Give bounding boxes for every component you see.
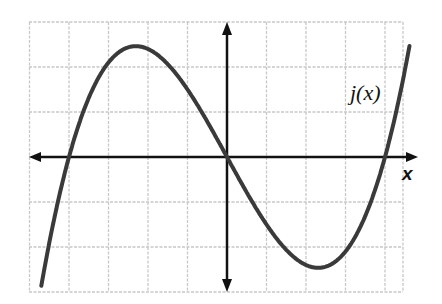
axes [29,22,418,292]
function-label: j(x) [347,80,381,105]
x-axis-right-arrow-icon [406,152,418,162]
x-axis-left-arrow-icon [29,152,41,162]
x-axis-label: x [401,163,414,184]
y-axis-down-arrow-icon [222,279,232,292]
y-axis-up-arrow-icon [222,22,232,35]
cubic-function-graph: j(x) x [0,0,442,304]
